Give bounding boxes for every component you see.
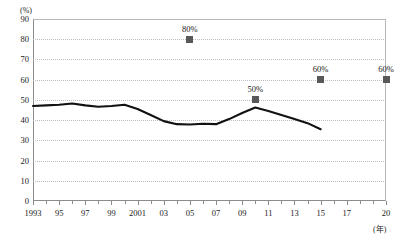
target-marker-label: 80% — [170, 25, 210, 34]
target-marker — [317, 76, 324, 83]
target-marker-label: 60% — [301, 65, 341, 74]
target-marker-label: 60% — [366, 65, 406, 74]
line-series-layer — [0, 0, 406, 242]
trend-line-path — [33, 104, 321, 130]
target-marker — [252, 96, 259, 103]
target-marker — [186, 36, 193, 43]
x-axis-unit-label: (年) — [373, 223, 386, 234]
target-marker — [383, 76, 390, 83]
chart-container: (%) 9080706050403020100 1993959799200103… — [0, 0, 406, 242]
target-marker-label: 50% — [235, 85, 275, 94]
